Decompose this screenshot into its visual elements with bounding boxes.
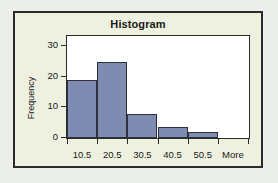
x-axis-tick (97, 138, 98, 144)
histogram-chart-card: Histogram Frequency 010203010.520.530.54… (13, 11, 263, 168)
x-axis-tick (188, 138, 189, 144)
y-axis-tick: 30 (61, 45, 67, 46)
histogram-bar (97, 62, 127, 139)
histogram-bar (188, 132, 218, 138)
chart-title: Histogram (15, 18, 261, 30)
x-axis-tick (67, 138, 68, 144)
x-axis-tick-label: More (213, 149, 253, 160)
y-axis-tick-label: 10 (34, 100, 58, 111)
x-axis-tick (127, 138, 128, 144)
histogram-bar (158, 127, 188, 138)
y-axis-tick-label: 30 (34, 39, 58, 50)
x-axis-tick (218, 138, 219, 144)
y-axis-tick: 20 (61, 76, 67, 77)
plot-inner: 010203010.520.530.540.550.5More (67, 36, 249, 138)
x-axis-tick (158, 138, 159, 144)
y-axis-tick-label: 20 (34, 70, 58, 81)
y-axis-tick: 10 (61, 106, 67, 107)
histogram-bar (67, 80, 97, 138)
x-axis-tick (248, 138, 249, 144)
plot-area: 010203010.520.530.540.550.5More (66, 35, 250, 139)
histogram-bar (127, 114, 157, 138)
y-axis-tick-label: 0 (34, 131, 58, 142)
